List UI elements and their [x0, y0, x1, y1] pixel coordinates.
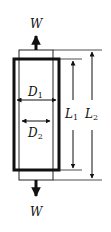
specimen-diagram: W W D1 D2 L1 L2 — [0, 0, 111, 232]
load-label-top: W — [30, 17, 44, 31]
l1-label: L1 — [64, 107, 78, 122]
outer-tube — [14, 59, 59, 170]
inner-tube — [19, 50, 53, 180]
d2-label: D2 — [27, 126, 43, 141]
l2-label: L2 — [84, 107, 98, 122]
d1-label: D1 — [27, 85, 43, 100]
load-label-bottom: W — [30, 205, 44, 219]
